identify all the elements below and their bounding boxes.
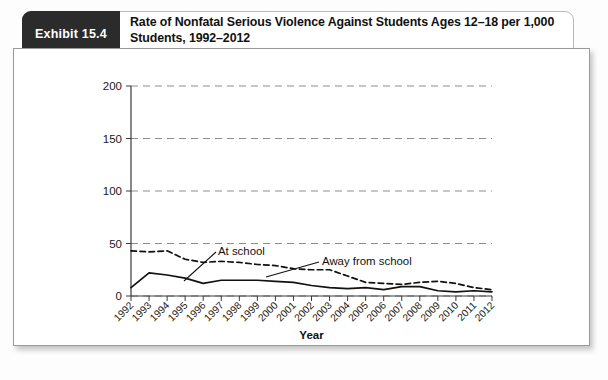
- xtick-label-1999: 1999: [238, 299, 262, 323]
- xtick-label-1992: 1992: [112, 299, 136, 323]
- x-axis-title: Year: [299, 329, 324, 341]
- xtick-label-2000: 2000: [256, 299, 280, 323]
- xtick-label-2006: 2006: [364, 299, 388, 323]
- exhibit-figure: Exhibit 15.4 Rate of Nonfatal Serious Vi…: [0, 0, 608, 380]
- xtick-label-2007: 2007: [382, 299, 406, 323]
- ytick-label-100: 100: [103, 185, 122, 197]
- series-annotation-at-school: At school: [218, 245, 265, 257]
- exhibit-number-label: Exhibit 15.4: [35, 27, 107, 41]
- series-line-at-school: [131, 273, 492, 292]
- xtick-label-1996: 1996: [184, 299, 208, 323]
- leader-line-at-school: [184, 252, 216, 281]
- xtick-label-2003: 2003: [310, 299, 334, 323]
- xtick-label-2005: 2005: [346, 299, 370, 323]
- xtick-label-2010: 2010: [437, 299, 461, 323]
- xtick-label-1997: 1997: [202, 299, 226, 323]
- xtick-label-2008: 2008: [400, 299, 424, 323]
- series-annotation-away-from-school: Away from school: [322, 255, 412, 267]
- series-line-away-from-school: [131, 251, 492, 290]
- line-chart: 0501001502001992199319941995199619971998…: [14, 49, 591, 347]
- ytick-label-150: 150: [103, 133, 122, 145]
- xtick-label-2001: 2001: [274, 299, 298, 323]
- xtick-label-1994: 1994: [148, 299, 172, 323]
- ytick-label-0: 0: [116, 290, 122, 302]
- xtick-label-2009: 2009: [418, 299, 442, 323]
- xtick-label-1998: 1998: [220, 299, 244, 323]
- xtick-label-2012: 2012: [473, 299, 497, 323]
- xtick-label-1993: 1993: [130, 299, 154, 323]
- exhibit-title: Rate of Nonfatal Serious Violence Agains…: [130, 15, 560, 46]
- xtick-label-2002: 2002: [292, 299, 316, 323]
- ytick-label-50: 50: [109, 238, 122, 250]
- chart-panel: 0501001502001992199319941995199619971998…: [13, 48, 590, 346]
- chart-plot-area: 0501001502001992199319941995199619971998…: [14, 49, 591, 347]
- xtick-label-2004: 2004: [328, 299, 352, 323]
- xtick-label-1995: 1995: [166, 299, 190, 323]
- ytick-label-200: 200: [103, 80, 122, 92]
